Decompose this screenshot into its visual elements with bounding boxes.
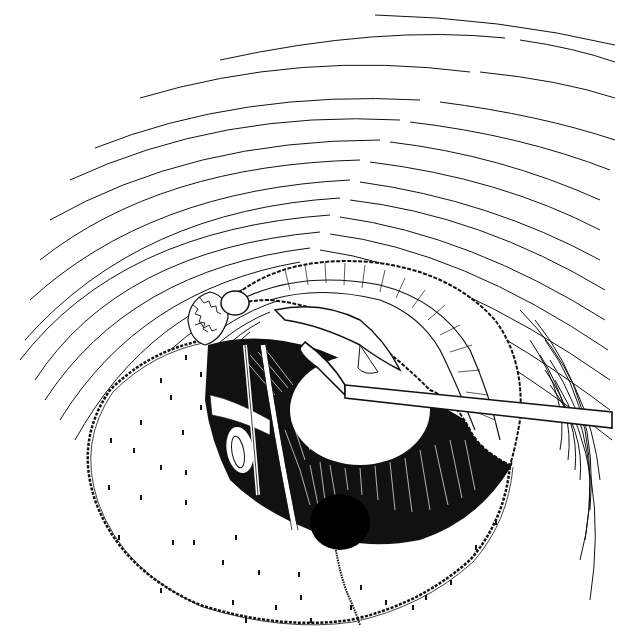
fibrous-tissue — [188, 291, 249, 345]
ear-surgery-illustration — [0, 0, 623, 641]
